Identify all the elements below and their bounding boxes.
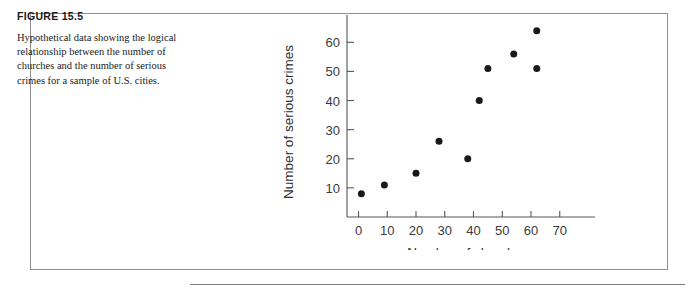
x-tick-label: 20 bbox=[409, 223, 423, 238]
x-tick-label: 50 bbox=[495, 223, 509, 238]
data-point bbox=[464, 155, 471, 162]
data-point bbox=[510, 50, 517, 57]
data-point bbox=[476, 97, 483, 104]
x-tick-label: 40 bbox=[466, 223, 480, 238]
y-tick-label: 40 bbox=[326, 94, 340, 109]
data-point bbox=[533, 65, 540, 72]
y-tick-label: 60 bbox=[326, 35, 340, 50]
data-point bbox=[484, 65, 491, 72]
x-tick-label: 70 bbox=[553, 223, 567, 238]
y-axis-title: Number of serious crimes bbox=[281, 45, 296, 199]
x-axis-title: Number of churches bbox=[407, 245, 529, 250]
scatter-plot-svg: 010203040506070102030405060Number of chu… bbox=[265, 5, 625, 250]
data-point bbox=[533, 27, 540, 34]
y-tick-label: 50 bbox=[326, 64, 340, 79]
data-point bbox=[381, 181, 388, 188]
figure-caption-text: Hypothetical data showing the logical re… bbox=[17, 31, 192, 88]
data-point bbox=[413, 170, 420, 177]
y-tick-label: 10 bbox=[326, 181, 340, 196]
x-tick-label: 30 bbox=[438, 223, 452, 238]
x-tick-label: 60 bbox=[524, 223, 538, 238]
figure-number-label: FIGURE 15.5 bbox=[17, 10, 192, 22]
y-tick-label: 20 bbox=[326, 152, 340, 167]
y-tick-label: 30 bbox=[326, 123, 340, 138]
x-tick-label: 0 bbox=[355, 223, 362, 238]
figure-caption-block: FIGURE 15.5 Hypothetical data showing th… bbox=[17, 10, 192, 88]
x-tick-label: 10 bbox=[380, 223, 394, 238]
data-point bbox=[436, 138, 443, 145]
horizontal-rule bbox=[190, 284, 685, 285]
scatter-plot: 010203040506070102030405060Number of chu… bbox=[265, 5, 625, 250]
data-point bbox=[358, 190, 365, 197]
